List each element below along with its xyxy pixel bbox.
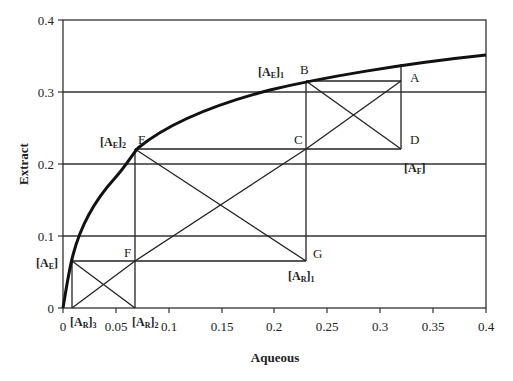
x-tick-label: 0.2 <box>266 319 282 334</box>
x-tick-label: 0 <box>60 319 67 334</box>
x-tick-label: 0.35 <box>422 319 445 334</box>
point-label-F: F <box>124 245 131 260</box>
point-label-E: E <box>138 132 146 147</box>
x-tick-labels: 0 0.05 0.1 0.15 0.2 0.25 0.3 0.35 0.4 <box>60 319 495 334</box>
point-label-A: A <box>410 70 420 85</box>
x-tick-label: 0.4 <box>478 319 495 334</box>
label-AF: [AF] <box>404 161 426 176</box>
x-tick-label: 0.1 <box>161 319 177 334</box>
label-AR3: [AR]3 <box>70 315 96 330</box>
label-AE2: [AE]2 <box>100 135 126 150</box>
point-label-C: C <box>294 132 303 147</box>
x-tick-label: 0.3 <box>372 319 388 334</box>
point-label-B: B <box>300 62 309 77</box>
y-tick-label: 0.4 <box>38 13 55 28</box>
label-AR2: [AR]2 <box>132 315 158 330</box>
x-axis-title: Aqueous <box>251 350 299 365</box>
x-tick-label: 0.05 <box>105 319 128 334</box>
equilibrium-curve <box>63 55 486 308</box>
y-tick-label: 0.2 <box>38 157 54 172</box>
x-tick-label: 0.25 <box>316 319 339 334</box>
point-label-G: G <box>313 246 322 261</box>
mccabe-thiele-diagram: 0.4 0.3 0.2 0.1 0 0 0.05 0.1 0.15 0.2 0.… <box>0 0 513 381</box>
label-AE: [AE] <box>36 256 58 271</box>
y-tick-label: 0.1 <box>38 229 54 244</box>
point-label-D: D <box>410 132 419 147</box>
y-tick-label: 0 <box>48 301 55 316</box>
y-tick-label: 0.3 <box>38 85 54 100</box>
label-AE1: [AE]1 <box>258 65 284 80</box>
x-tick-label: 0.15 <box>211 319 234 334</box>
label-AR1: [AR]1 <box>288 269 314 284</box>
y-axis-title: Extract <box>16 142 31 185</box>
